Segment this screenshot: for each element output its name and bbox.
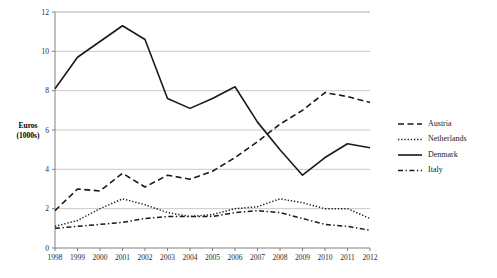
series-line-italy xyxy=(55,211,370,231)
x-tick-label: 1998 xyxy=(48,253,63,262)
chart-legend: AustriaNetherlandsDenmarkItaly xyxy=(398,119,467,175)
x-tick-labels-group: 1998199920002001200220032004200520062007… xyxy=(48,248,378,262)
x-tick-label: 1999 xyxy=(70,253,85,262)
y-tick-label: 2 xyxy=(45,204,49,213)
chart-canvas: 024681012 199819992000200120022003200420… xyxy=(0,0,497,278)
series-line-denmark xyxy=(55,26,370,175)
legend-label-denmark: Denmark xyxy=(428,150,458,159)
x-tick-label: 2007 xyxy=(250,253,265,262)
y-axis-title-line1: Euros xyxy=(18,121,37,130)
x-tick-label: 2006 xyxy=(228,253,243,262)
x-tick-label: 2001 xyxy=(115,253,130,262)
legend-label-netherlands: Netherlands xyxy=(428,134,467,143)
x-tick-label: 2002 xyxy=(138,253,153,262)
x-tick-label: 2003 xyxy=(160,253,175,262)
gridlines-group xyxy=(55,12,370,209)
x-tick-label: 2009 xyxy=(295,253,310,262)
series-line-austria xyxy=(55,93,370,211)
x-tick-label: 2008 xyxy=(273,253,288,262)
data-series-group xyxy=(55,26,370,231)
x-tick-label: 2000 xyxy=(93,253,108,262)
y-tick-label: 6 xyxy=(45,126,49,135)
y-tick-label: 10 xyxy=(42,47,50,56)
y-tick-label: 4 xyxy=(45,165,49,174)
x-tick-label: 2010 xyxy=(318,253,333,262)
legend-label-austria: Austria xyxy=(428,119,452,128)
x-tick-label: 2012 xyxy=(363,253,378,262)
x-tick-label: 2011 xyxy=(340,253,355,262)
legend-label-italy: Italy xyxy=(428,165,443,174)
x-tick-label: 2005 xyxy=(205,253,220,262)
series-line-netherlands xyxy=(55,199,370,227)
line-chart-figure: 024681012 199819992000200120022003200420… xyxy=(0,0,497,278)
y-tick-label: 12 xyxy=(42,8,50,17)
y-axis-title-line2: (1000s) xyxy=(17,131,40,140)
x-tick-label: 2004 xyxy=(183,253,198,262)
y-tick-labels-group: 024681012 xyxy=(42,8,56,253)
y-tick-label: 0 xyxy=(45,244,49,253)
y-tick-label: 8 xyxy=(45,86,49,95)
